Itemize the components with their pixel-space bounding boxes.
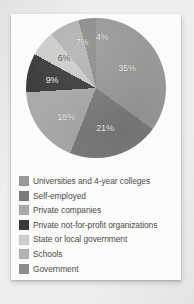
chart-card: 35%21%18%9%6%7%4% Universities and 4-yea…	[11, 14, 181, 280]
legend-color-swatch	[19, 191, 29, 201]
legend-item-label: State or local government	[33, 235, 127, 243]
legend-item[interactable]: Private companies	[19, 203, 177, 218]
pie-chart: 35%21%18%9%6%7%4%	[11, 14, 181, 166]
legend-color-swatch	[19, 205, 29, 215]
legend-item-label: Self-employed	[33, 192, 86, 200]
legend-item-label: Government	[33, 265, 79, 273]
legend-item[interactable]: Universities and 4-year colleges	[19, 174, 177, 189]
pie-graphic: 35%21%18%9%6%7%4%	[26, 18, 166, 158]
legend-item[interactable]: Self-employed	[19, 189, 177, 204]
legend-item-label: Universities and 4-year colleges	[33, 177, 150, 185]
legend-item-label: Private companies	[33, 206, 101, 214]
legend-color-swatch	[19, 176, 29, 186]
legend-color-swatch	[19, 235, 29, 245]
legend-color-swatch	[19, 264, 29, 274]
legend-color-swatch	[19, 220, 29, 230]
chart-legend: Universities and 4-year collegesSelf-emp…	[19, 174, 177, 276]
legend-color-swatch	[19, 249, 29, 259]
legend-item-label: Schools	[33, 250, 62, 258]
legend-item[interactable]: Private not-for-profit organizations	[19, 218, 177, 233]
pie-slices[interactable]	[26, 18, 166, 158]
legend-item[interactable]: Government	[19, 262, 177, 277]
legend-item[interactable]: State or local government	[19, 232, 177, 247]
legend-item[interactable]: Schools	[19, 247, 177, 262]
legend-item-label: Private not-for-profit organizations	[33, 221, 157, 229]
